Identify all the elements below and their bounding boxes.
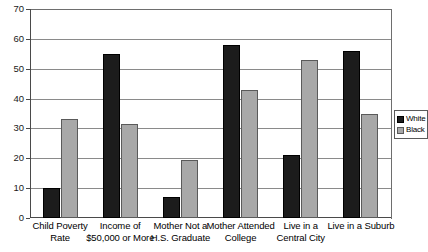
y-axis-tick-label: 20 [0,153,24,163]
legend-swatch-icon [397,127,404,134]
x-axis-category-labels: Child Poverty RateIncome of $50,000 or M… [30,220,391,252]
y-axis-tick-mark [26,218,30,219]
x-axis-category-label: Live in a Suburb [323,220,399,232]
y-axis-tick-label: 40 [0,94,24,104]
y-axis-tick-label: 60 [0,34,24,44]
y-axis-tick-label: 70 [0,4,24,14]
legend-item: Black [397,125,425,135]
y-axis-labels: 010203040506070 [0,0,28,252]
y-axis-tick-label: 10 [0,183,24,193]
legend-swatch-icon [397,116,404,123]
bar-white-3 [223,45,240,218]
bar-chart: 010203040506070 Child Poverty RateIncome… [0,0,428,252]
bar-white-5 [343,51,360,218]
y-axis-tick-label: 50 [0,64,24,74]
y-axis-tick-label: 0 [0,213,24,223]
legend-item: White [397,114,425,124]
bar-black-0 [61,119,78,218]
legend-label: Black [406,126,425,134]
chart-legend: WhiteBlack [394,110,428,139]
bar-white-1 [103,54,120,218]
bar-white-4 [283,155,300,218]
bar-black-2 [181,160,198,218]
bar-white-0 [43,188,60,218]
legend-label: White [406,115,425,123]
bar-black-3 [241,90,258,218]
bar-white-2 [163,197,180,218]
bar-black-4 [301,60,318,218]
bar-black-1 [121,124,138,218]
y-axis-tick-label: 30 [0,123,24,133]
bar-black-5 [361,114,378,219]
bars-layer [30,9,391,218]
plot-frame-right [391,9,392,219]
